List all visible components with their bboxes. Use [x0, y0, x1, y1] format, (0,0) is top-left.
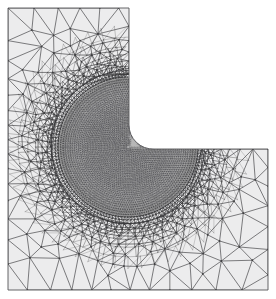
mesh-figure: Adaptively refined triangular mesh on an…: [0, 0, 276, 299]
finite-element-mesh-svg: [0, 0, 276, 299]
